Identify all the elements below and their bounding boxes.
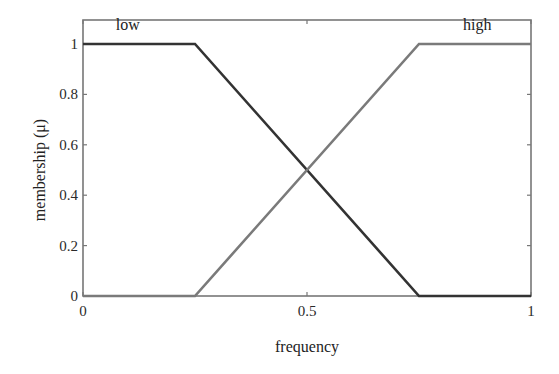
x-tick-label: 0 <box>79 303 87 319</box>
plot-frame <box>83 20 531 296</box>
y-tick-label: 0.4 <box>59 187 78 203</box>
series-lines <box>83 44 531 296</box>
y-axis-ticks: 00.20.40.60.81 <box>59 36 531 304</box>
series-labels: lowhigh <box>116 16 492 34</box>
y-axis-title: membership (μ) <box>31 119 49 221</box>
x-axis-title: frequency <box>275 338 339 356</box>
y-tick-label: 0 <box>71 288 79 304</box>
series-label-low: low <box>116 16 140 33</box>
membership-function-chart: 00.20.40.60.81 00.51 lowhigh frequency m… <box>0 0 559 374</box>
series-label-high: high <box>463 16 491 34</box>
y-tick-label: 0.8 <box>59 86 78 102</box>
x-tick-label: 0.5 <box>298 303 317 319</box>
x-tick-label: 1 <box>527 303 535 319</box>
series-line-high <box>83 44 531 296</box>
y-tick-label: 1 <box>71 36 79 52</box>
y-tick-label: 0.2 <box>59 238 78 254</box>
y-tick-label: 0.6 <box>59 137 78 153</box>
